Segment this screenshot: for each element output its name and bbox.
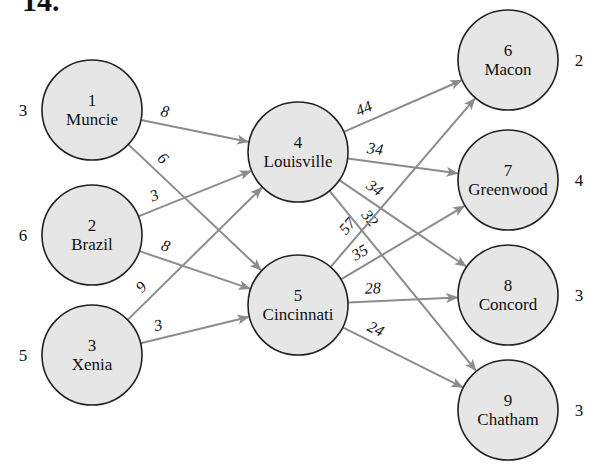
node-name: Concord bbox=[479, 295, 538, 314]
edge-cost-label: 57 bbox=[335, 214, 359, 238]
edge-1-to-4: 8 bbox=[141, 102, 248, 142]
node-name: Cincinnati bbox=[263, 305, 334, 324]
edge-cost-label: 3 bbox=[151, 316, 164, 335]
node-number: 5 bbox=[294, 286, 303, 305]
edge-cost-label: 44 bbox=[353, 97, 374, 119]
node-number: 8 bbox=[504, 276, 513, 295]
node-muncie[interactable]: 1Muncie3 bbox=[19, 60, 142, 160]
edge-cost-label: 6 bbox=[154, 149, 171, 167]
node-number: 3 bbox=[88, 336, 97, 355]
nodes-layer: 1Muncie32Brazil63Xenia54Louisville5Cinci… bbox=[19, 10, 584, 460]
node-number: 7 bbox=[504, 161, 513, 180]
node-number: 9 bbox=[504, 391, 513, 410]
edge-4-to-9: 32 bbox=[330, 191, 476, 371]
node-name: Macon bbox=[484, 60, 532, 79]
edge-cost-label: 28 bbox=[364, 279, 381, 297]
edge-cost-label: 8 bbox=[160, 102, 171, 120]
node-chatham[interactable]: 9Chatham3 bbox=[458, 360, 583, 460]
node-name: Louisville bbox=[264, 152, 333, 171]
node-number: 4 bbox=[294, 133, 303, 152]
transshipment-network-diagram: 8638934434343257352824 1Muncie32Brazil63… bbox=[0, 0, 597, 474]
node-quantity: 3 bbox=[575, 286, 584, 305]
node-name: Brazil bbox=[71, 235, 113, 254]
arrow-line bbox=[348, 159, 458, 174]
edge-cost-label: 34 bbox=[363, 176, 387, 200]
node-brazil[interactable]: 2Brazil6 bbox=[19, 185, 142, 285]
node-name: Muncie bbox=[66, 110, 118, 129]
node-cincinnati[interactable]: 5Cincinnati bbox=[248, 255, 348, 355]
arrow-line bbox=[139, 251, 249, 289]
edge-4-to-7: 34 bbox=[348, 139, 458, 173]
edge-cost-label: 9 bbox=[132, 278, 150, 296]
node-quantity: 5 bbox=[19, 346, 28, 365]
node-quantity: 6 bbox=[19, 226, 28, 245]
node-number: 1 bbox=[88, 91, 97, 110]
edge-cost-label: 24 bbox=[365, 317, 387, 339]
node-greenwood[interactable]: 7Greenwood4 bbox=[458, 130, 584, 230]
node-name: Greenwood bbox=[468, 180, 548, 199]
node-louisville[interactable]: 4Louisville bbox=[248, 102, 348, 202]
arrow-line bbox=[141, 120, 248, 142]
node-concord[interactable]: 8Concord3 bbox=[458, 245, 583, 345]
node-quantity: 2 bbox=[575, 51, 584, 70]
node-macon[interactable]: 6Macon2 bbox=[458, 10, 583, 110]
edge-4-to-6: 44 bbox=[344, 80, 461, 131]
arrow-line bbox=[348, 297, 457, 302]
edge-cost-label: 34 bbox=[365, 139, 384, 158]
node-quantity: 3 bbox=[19, 101, 28, 120]
edge-cost-label: 32 bbox=[358, 206, 382, 230]
node-name: Chatham bbox=[477, 410, 538, 429]
edge-2-to-4: 3 bbox=[138, 171, 250, 216]
node-quantity: 3 bbox=[575, 401, 584, 420]
node-number: 6 bbox=[504, 41, 513, 60]
edge-cost-label: 3 bbox=[146, 186, 161, 205]
arrow-line bbox=[343, 327, 463, 387]
edge-5-to-8: 28 bbox=[348, 279, 457, 303]
node-quantity: 4 bbox=[575, 171, 584, 190]
node-number: 2 bbox=[88, 216, 97, 235]
edge-cost-label: 8 bbox=[159, 236, 172, 255]
edge-5-to-9: 24 bbox=[343, 317, 463, 387]
edge-3-to-5: 3 bbox=[141, 316, 249, 343]
arrow-line bbox=[330, 191, 476, 371]
node-name: Xenia bbox=[72, 355, 113, 374]
node-xenia[interactable]: 3Xenia5 bbox=[19, 305, 142, 405]
